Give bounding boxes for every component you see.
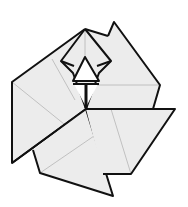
origami-drawing: [0, 0, 188, 207]
origami-diagram: origami flower / pinwheel fold: [0, 0, 188, 207]
